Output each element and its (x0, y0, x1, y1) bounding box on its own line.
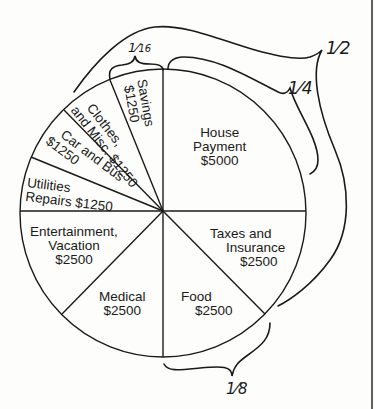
label-amount: $2500 (30, 253, 118, 267)
brace-sixteenth (110, 56, 164, 79)
fraction-denominator: 8 (238, 380, 248, 398)
fraction-numerator: 1 (128, 40, 136, 55)
label-amount: $2500 (210, 255, 285, 269)
fraction-denominator: 2 (340, 38, 351, 58)
label-house-payment: House Payment $5000 (193, 126, 246, 168)
label-entertainment-vacation: Entertainment, Vacation $2500 (30, 225, 118, 267)
fraction-numerator: 1 (288, 78, 299, 98)
label-food: Food $2500 (181, 290, 233, 318)
fraction-eighth: 1⁄8 (226, 380, 248, 398)
brace-eighth (164, 323, 270, 376)
label-taxes-insurance: Taxes and Insurance $2500 (210, 227, 285, 269)
label-line: Medical (99, 290, 146, 304)
fraction-half: 1⁄2 (326, 38, 351, 58)
fraction-sixteenth: 1⁄16 (128, 40, 151, 55)
fraction-denominator: 16 (138, 43, 151, 54)
label-amount: $2500 (99, 304, 146, 318)
label-line: Vacation (30, 239, 118, 253)
label-line: House (193, 126, 246, 140)
budget-pie-diagram: House Payment $5000 Taxes and Insurance … (0, 0, 375, 409)
fraction-denominator: 4 (302, 78, 313, 98)
fraction-numerator: 1 (226, 380, 236, 398)
fraction-quarter: 1⁄4 (288, 78, 313, 98)
label-line: Insurance (210, 241, 285, 255)
label-amount: $2500 (181, 304, 233, 318)
label-line: Food (181, 290, 233, 304)
label-line: Payment (193, 140, 246, 154)
label-amount: $5000 (193, 154, 246, 168)
fraction-numerator: 1 (326, 38, 337, 58)
label-medical: Medical $2500 (99, 290, 146, 318)
label-line: Entertainment, (30, 225, 118, 239)
label-line: Taxes and (210, 227, 285, 241)
